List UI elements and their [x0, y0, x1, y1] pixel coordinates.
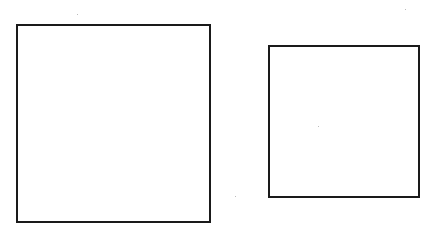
scan-speck: [318, 126, 319, 127]
small-square: [268, 45, 420, 198]
scan-speck: [77, 14, 78, 15]
large-square: [16, 24, 211, 223]
scan-speck: [405, 9, 406, 10]
scan-speck: [235, 196, 236, 197]
